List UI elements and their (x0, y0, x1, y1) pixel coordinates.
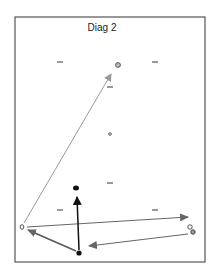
diagram-canvas: Diag 2 (0, 0, 213, 273)
node-right-b (191, 230, 195, 234)
diagram-frame (15, 17, 205, 262)
node-top (116, 63, 121, 68)
node-left (20, 225, 24, 230)
node-right-a (188, 225, 192, 229)
node-middle-bold (73, 186, 79, 191)
node-bottom (76, 250, 81, 255)
node-center-small (109, 133, 112, 136)
diagram-title: Diag 2 (88, 22, 117, 33)
